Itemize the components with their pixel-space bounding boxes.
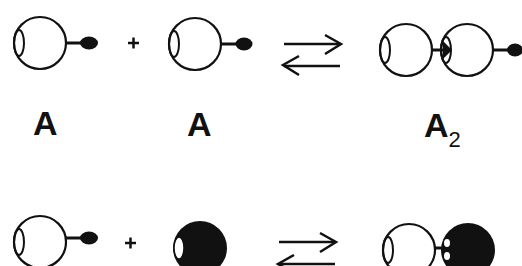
heterocomplex: [383, 223, 495, 266]
black-sphere: [173, 221, 227, 266]
label-a-1: A: [33, 104, 58, 142]
molecule-a-2: [169, 18, 253, 70]
molecule-a-1: [14, 17, 98, 69]
plus-sign-1: [128, 38, 139, 49]
label-a2-subscript: 2: [449, 127, 461, 152]
plus-sign-2: [125, 238, 136, 249]
molecule-a-3: [14, 216, 98, 266]
dimer-a2: [380, 24, 522, 76]
label-a-2: A: [187, 105, 212, 143]
reaction-diagram: A A A2: [0, 0, 522, 266]
equilibrium-arrows-1: [283, 35, 341, 75]
equilibrium-arrows-2: [278, 233, 336, 266]
label-a2: A2: [424, 106, 461, 152]
